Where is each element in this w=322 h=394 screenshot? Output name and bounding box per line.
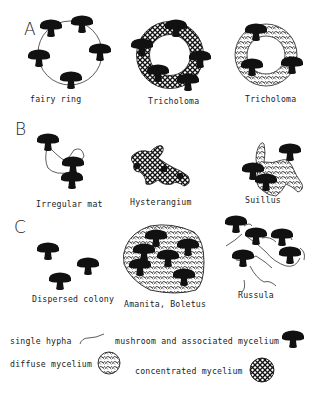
section-label-c: C [14,217,26,237]
panel-tricholoma-concentrated: Tricholoma [131,20,211,107]
section-label-a: A [24,19,36,39]
legend-mushroom-label: mushroom and associated mycelium [115,336,279,346]
mushroom-icon [49,273,71,291]
section-c: C Dispersed colony Amanita, Boletus [14,216,305,310]
panel-dispersed-colony: Dispersed colony [32,243,114,305]
section-a: A fairy ring Tricholoma [24,16,303,107]
mushroom-icon [245,228,267,246]
mushroom-icon [225,216,247,234]
caption-suillus: Suillus [245,195,281,205]
panel-russula: Russula [225,216,305,301]
panel-irregular-mat: Irregular mat [36,134,103,210]
mushroom-icon [61,172,83,190]
panel-fairy-ring: fairy ring [28,16,111,105]
legend: single hypha mushroom and associated myc… [10,331,304,383]
mushroom-icon [28,50,50,68]
mushroom-icon [60,72,82,90]
mushroom-icon [62,157,84,175]
mushroom-icon [282,331,304,349]
caption-tricholoma-1: Tricholoma [148,96,199,106]
panel-amanita-boletus: Amanita, Boletus [123,225,206,309]
diffuse-mycelium-ring [241,30,291,80]
mushroom-icon [232,250,254,268]
section-label-b: B [15,119,26,139]
legend-single-hypha-label: single hypha [10,336,72,346]
mycelium-distribution-figure: A fairy ring Tricholoma [0,0,322,394]
legend-concentrated-label: concentrated mycelium [135,366,243,376]
mushroom-icon [279,144,301,162]
panel-tricholoma-diffuse: Tricholoma [235,24,303,105]
caption-irregular-mat: Irregular mat [36,199,103,209]
mushroom-icon [77,258,99,276]
panel-hysterangium: Hysterangium [130,146,192,207]
panel-suillus: Suillus [242,143,303,205]
section-b: B Irregular mat Hysterangium Suillus [15,119,303,209]
mushroom-icon [271,229,293,247]
caption-amanita-boletus: Amanita, Boletus [124,299,206,309]
diffuse-mycelium-icon [98,352,120,374]
single-hypha-icon [80,334,104,344]
mushroom-icon [37,134,59,152]
mushroom-icon [89,44,111,62]
caption-fairy-ring: fairy ring [30,94,81,104]
caption-russula: Russula [238,290,274,300]
mushroom-icon [40,20,62,38]
legend-diffuse-label: diffuse mycelium [10,359,92,369]
mushroom-icon [71,16,93,34]
mushroom-icon [37,243,59,261]
caption-dispersed-colony: Dispersed colony [32,294,114,304]
concentrated-mycelium-icon [250,358,274,382]
caption-tricholoma-2: Tricholoma [245,94,296,104]
caption-hysterangium: Hysterangium [130,197,192,207]
mushroom-icon [177,74,199,92]
